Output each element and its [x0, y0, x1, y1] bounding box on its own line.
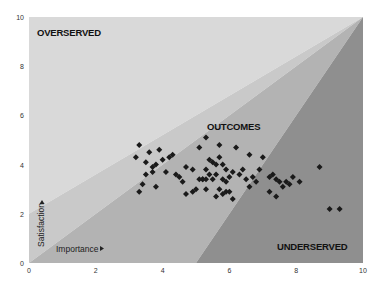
outcomes-label: OUTCOMES — [207, 121, 260, 132]
x-tick-label: 4 — [161, 267, 165, 274]
y-tick-label: 2 — [20, 211, 24, 218]
y-tick-label: 4 — [20, 162, 24, 169]
y-axis-title: Satisfaction — [36, 203, 46, 247]
y-tick-label: 6 — [20, 112, 24, 119]
y-tick-label: 10 — [16, 14, 24, 21]
x-tick-label: 6 — [227, 267, 231, 274]
x-tick-label: 10 — [359, 267, 367, 274]
x-tick-label: 2 — [94, 267, 98, 274]
overserved-label: OVERSERVED — [37, 27, 101, 38]
zone-regions — [29, 17, 363, 263]
x-axis-ticks: 0246810 — [27, 267, 367, 274]
y-axis-ticks: 0246810 — [16, 14, 24, 267]
y-tick-label: 8 — [20, 63, 24, 70]
y-axis-label: Satisfaction — [36, 200, 46, 247]
x-axis-label: Importance — [56, 244, 104, 254]
x-tick-label: 8 — [294, 267, 298, 274]
y-tick-label: 0 — [20, 260, 24, 267]
x-tick-label: 0 — [27, 267, 31, 274]
underserved-label: UNDERSERVED — [277, 241, 348, 252]
opportunity-scatter-chart: 0246810 0246810 OVERSERVED OUTCOMES UNDE… — [0, 0, 387, 289]
x-axis-title: Importance — [56, 244, 99, 254]
